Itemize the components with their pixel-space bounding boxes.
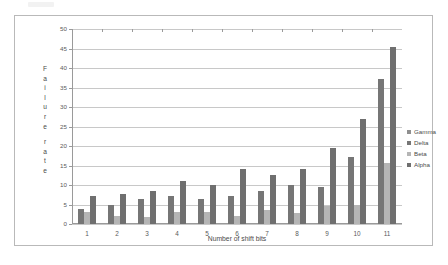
bar-alpha[interactable] — [270, 175, 276, 224]
legend-item-label: Alpha — [414, 159, 430, 170]
chart-legend: GammaDeltaBetaAlpha — [407, 126, 436, 170]
legend-swatch-icon — [407, 141, 411, 145]
bar-alpha[interactable] — [180, 181, 186, 224]
x-axis-tick-mark — [72, 29, 73, 32]
y-axis-tick-label: 35 — [60, 84, 67, 90]
x-axis-tick-mark — [372, 29, 373, 32]
bar-group: 4 — [162, 29, 192, 224]
y-axis-tick-label: 0 — [64, 221, 67, 227]
y-axis-tick-label: 50 — [60, 26, 67, 32]
bar-group: 7 — [252, 29, 282, 224]
bar-alpha[interactable] — [330, 148, 336, 224]
y-axis-title-char: e — [39, 166, 51, 176]
y-axis-title-char: e — [39, 122, 51, 132]
x-axis-title: Number of shift bits — [72, 235, 402, 242]
legend-swatch-icon — [407, 130, 411, 134]
y-axis-title-char: r — [39, 137, 51, 147]
legend-swatch-icon — [407, 152, 411, 156]
bar-alpha[interactable] — [300, 169, 306, 224]
bar-group: 3 — [132, 29, 162, 224]
bar-groups: 1234567891011 — [72, 29, 402, 224]
y-axis-tick-label: 5 — [64, 201, 67, 207]
x-axis-tick-mark — [162, 29, 163, 32]
chart-frame: Failurerate 05101520253035404550 1234567… — [14, 15, 433, 246]
y-axis-tick-label: 45 — [60, 45, 67, 51]
bar-alpha[interactable] — [360, 119, 366, 224]
plot-area: 05101520253035404550 1234567891011 — [72, 29, 402, 224]
bar-alpha[interactable] — [210, 185, 216, 224]
y-axis-title-char: u — [39, 102, 51, 112]
bar-group: 11 — [372, 29, 402, 224]
x-axis-tick-mark — [132, 29, 133, 32]
y-axis-title-char: r — [39, 112, 51, 122]
y-axis-tick-mark — [69, 224, 72, 225]
x-axis-tick-mark — [312, 29, 313, 32]
y-axis-tick-label: 15 — [60, 162, 67, 168]
bar-alpha[interactable] — [90, 196, 96, 224]
bar-alpha[interactable] — [240, 169, 246, 224]
y-axis-tick-label: 25 — [60, 123, 67, 129]
y-axis-title-char: a — [39, 74, 51, 84]
x-axis-tick-mark — [282, 29, 283, 32]
x-axis-tick-mark — [102, 29, 103, 32]
legend-swatch-icon — [407, 163, 411, 167]
bar-alpha[interactable] — [150, 191, 156, 224]
y-axis-tick-label: 30 — [60, 104, 67, 110]
y-axis-title-char: i — [39, 83, 51, 93]
y-axis-title: Failurerate — [39, 64, 51, 176]
top-artifact-strip — [0, 0, 448, 14]
legend-item-gamma[interactable]: Gamma — [407, 126, 436, 137]
legend-item-alpha[interactable]: Alpha — [407, 159, 436, 170]
bar-group: 2 — [102, 29, 132, 224]
legend-item-delta[interactable]: Delta — [407, 137, 436, 148]
y-axis-tick-label: 10 — [60, 182, 67, 188]
bar-alpha[interactable] — [390, 47, 396, 224]
y-axis-tick-label: 40 — [60, 65, 67, 71]
y-axis-title-char: t — [39, 156, 51, 166]
legend-item-beta[interactable]: Beta — [407, 148, 436, 159]
y-axis-title-char: F — [39, 64, 51, 74]
bar-group: 8 — [282, 29, 312, 224]
bar-group: 5 — [192, 29, 222, 224]
bar-group: 9 — [312, 29, 342, 224]
y-axis-title-char: a — [39, 147, 51, 157]
x-axis-tick-mark — [342, 29, 343, 32]
gridline — [72, 224, 402, 225]
bar-group: 6 — [222, 29, 252, 224]
y-axis-title-char: l — [39, 93, 51, 103]
x-axis-tick-mark — [192, 29, 193, 32]
legend-item-label: Delta — [414, 137, 428, 148]
legend-item-label: Beta — [414, 148, 427, 159]
bar-group: 1 — [72, 29, 102, 224]
x-axis-tick-mark — [252, 29, 253, 32]
x-axis-tick-mark — [222, 29, 223, 32]
bar-group: 10 — [342, 29, 372, 224]
y-axis-tick-label: 20 — [60, 143, 67, 149]
legend-item-label: Gamma — [414, 126, 436, 137]
bar-alpha[interactable] — [120, 194, 126, 224]
